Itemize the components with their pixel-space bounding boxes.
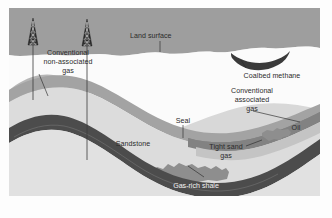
label-associated-gas-line3: gas (246, 105, 258, 113)
label-non-associated-gas-line2: non-associated (44, 58, 93, 66)
label-non-associated-gas-line3: gas (62, 67, 74, 75)
label-seal: Seal (176, 117, 191, 125)
label-associated-gas-line2: associated (235, 96, 269, 104)
label-gas-rich-shale: Gas-rich shale (173, 182, 219, 190)
label-oil: Oil (292, 124, 301, 132)
label-associated-gas-line1: Conventional (231, 87, 273, 95)
label-coalbed-methane: Coalbed methane (244, 72, 301, 80)
geology-cross-section-figure: Land surface Conventional non-associated… (0, 0, 332, 218)
label-land-surface: Land surface (130, 32, 172, 40)
label-non-associated-gas-line1: Conventional (47, 49, 89, 57)
label-sandstone: Sandstone (116, 140, 150, 148)
label-tight-sand-gas-line2: gas (220, 152, 232, 160)
label-tight-sand-gas-line1: Tight sand (209, 143, 242, 151)
cross-section-svg: Land surface Conventional non-associated… (0, 0, 332, 218)
